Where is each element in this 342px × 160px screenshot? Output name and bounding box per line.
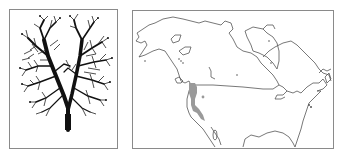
map-panel: Range map xyxy=(132,10,334,149)
tree-panel: Tree silhouette xyxy=(9,9,118,149)
north-america-map xyxy=(133,11,333,148)
range-shading xyxy=(189,83,205,121)
tree-silhouette-icon xyxy=(10,10,117,148)
